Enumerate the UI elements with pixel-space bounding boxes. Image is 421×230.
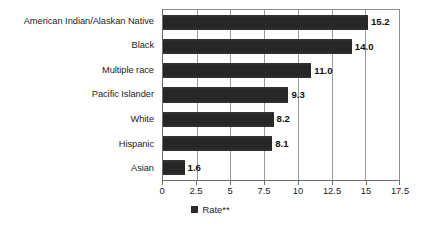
bar-value-label: 9.3 (291, 90, 304, 100)
bar (163, 39, 352, 54)
category-label: Hispanic (119, 140, 154, 149)
bar-value-label: 14.0 (355, 42, 374, 52)
bar-value-label: 8.1 (275, 139, 288, 149)
bar (163, 136, 272, 151)
x-axis-tick-label: 5 (227, 186, 232, 195)
category-label: White (130, 115, 154, 124)
bar (163, 15, 368, 30)
x-axis-tick-label: 10 (293, 186, 303, 195)
chart-legend: Rate** (0, 205, 421, 214)
x-axis-tick-label: 12.5 (323, 186, 341, 195)
bar-value-label: 8.2 (277, 114, 290, 124)
x-axis-tick-label: 0 (159, 186, 164, 195)
bar-value-label: 1.6 (188, 163, 201, 173)
bar-row: 14.0 (163, 34, 399, 58)
category-label-row: Pacific Islander (0, 83, 158, 108)
x-axis-tick-label: 15 (361, 186, 371, 195)
category-label-row: Black (0, 34, 158, 59)
category-label-row: White (0, 107, 158, 132)
bar (163, 160, 185, 175)
plot-area: 15.2 14.0 11.0 9.3 8.2 8.1 (162, 9, 400, 181)
legend-label: Rate** (202, 205, 229, 214)
bar-value-label: 11.0 (314, 66, 332, 76)
category-label: Pacific Islander (92, 90, 154, 99)
category-label: Multiple race (102, 66, 154, 75)
bar-row: 1.6 (163, 156, 399, 180)
bar (163, 63, 311, 78)
x-axis-tick-label: 2.5 (189, 186, 202, 195)
bar-chart: American Indian/Alaskan Native Black Mul… (0, 0, 421, 230)
x-axis-tick-label: 17.5 (391, 186, 409, 195)
bar-value-label: 15.2 (371, 17, 390, 27)
legend-swatch-icon (191, 206, 198, 213)
category-label: Asian (131, 164, 154, 173)
category-label: Black (132, 41, 154, 50)
category-label-row: American Indian/Alaskan Native (0, 9, 158, 34)
category-label-row: Multiple race (0, 58, 158, 83)
bar-row: 11.0 (163, 59, 399, 83)
category-axis-labels: American Indian/Alaskan Native Black Mul… (0, 9, 158, 181)
bar-row: 8.2 (163, 107, 399, 131)
category-label-row: Asian (0, 156, 158, 181)
x-axis-tick-label: 7.5 (257, 186, 270, 195)
bar (163, 87, 288, 102)
bar-series-rate: 15.2 14.0 11.0 9.3 8.2 8.1 (163, 10, 399, 180)
bar-row: 8.1 (163, 131, 399, 155)
bar-row: 15.2 (163, 10, 399, 34)
x-axis: 02.557.51012.51517.5 (162, 181, 400, 205)
bar (163, 112, 274, 127)
category-label-row: Hispanic (0, 132, 158, 157)
bar-row: 9.3 (163, 83, 399, 107)
category-label: American Indian/Alaskan Native (24, 17, 154, 26)
